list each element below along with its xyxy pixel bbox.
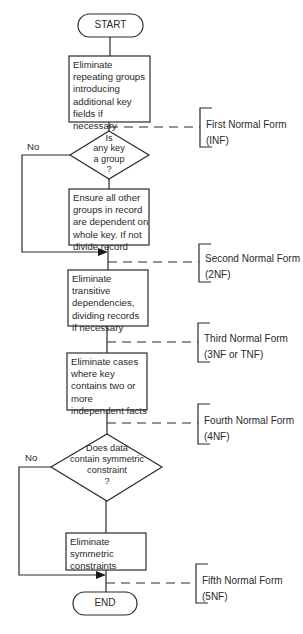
normal-form-4-abbr: (4NF) [204, 429, 294, 445]
normal-form-2-name: Second Normal Form [205, 251, 300, 267]
step-4-text: Eliminate cases where key contains two o… [71, 356, 147, 417]
decision-2-no-label: No [25, 452, 37, 464]
normal-form-1-name: First Normal Form [206, 117, 287, 133]
step-3-text: Eliminate transitive dependencies, divid… [72, 273, 139, 334]
normal-form-5: Fifth Normal Form (5NF) [202, 573, 283, 605]
normal-form-3: Third Normal Form (3NF or TNF) [204, 331, 288, 363]
step-2-text: Ensure all other groups in record are de… [73, 192, 148, 253]
normal-form-3-abbr: (3NF or TNF) [204, 347, 288, 363]
decision-2-text: Does data contain symmetric constraint ? [62, 443, 152, 487]
decision-1-no-label: No [27, 141, 39, 153]
normal-form-3-name: Third Normal Form [204, 331, 288, 347]
step-5-text: Eliminate symmetric constraints [70, 536, 116, 573]
normal-form-4-name: Fourth Normal Form [204, 413, 294, 429]
decision-1-text: Is any key a group ? [79, 133, 139, 175]
flowchart-lines [0, 0, 303, 634]
normal-form-2-abbr: (2NF) [205, 267, 300, 283]
normal-form-2: Second Normal Form (2NF) [205, 251, 300, 283]
start-label: START [78, 19, 143, 30]
step-1-text: Eliminate repeating groups introducing a… [73, 59, 145, 132]
end-label: END [73, 597, 137, 608]
normal-form-4: Fourth Normal Form (4NF) [204, 413, 294, 445]
normal-form-1: First Normal Form (INF) [206, 117, 287, 149]
normal-form-1-abbr: (INF) [206, 133, 287, 149]
normal-form-5-name: Fifth Normal Form [202, 573, 283, 589]
normal-form-5-abbr: (5NF) [202, 589, 283, 605]
